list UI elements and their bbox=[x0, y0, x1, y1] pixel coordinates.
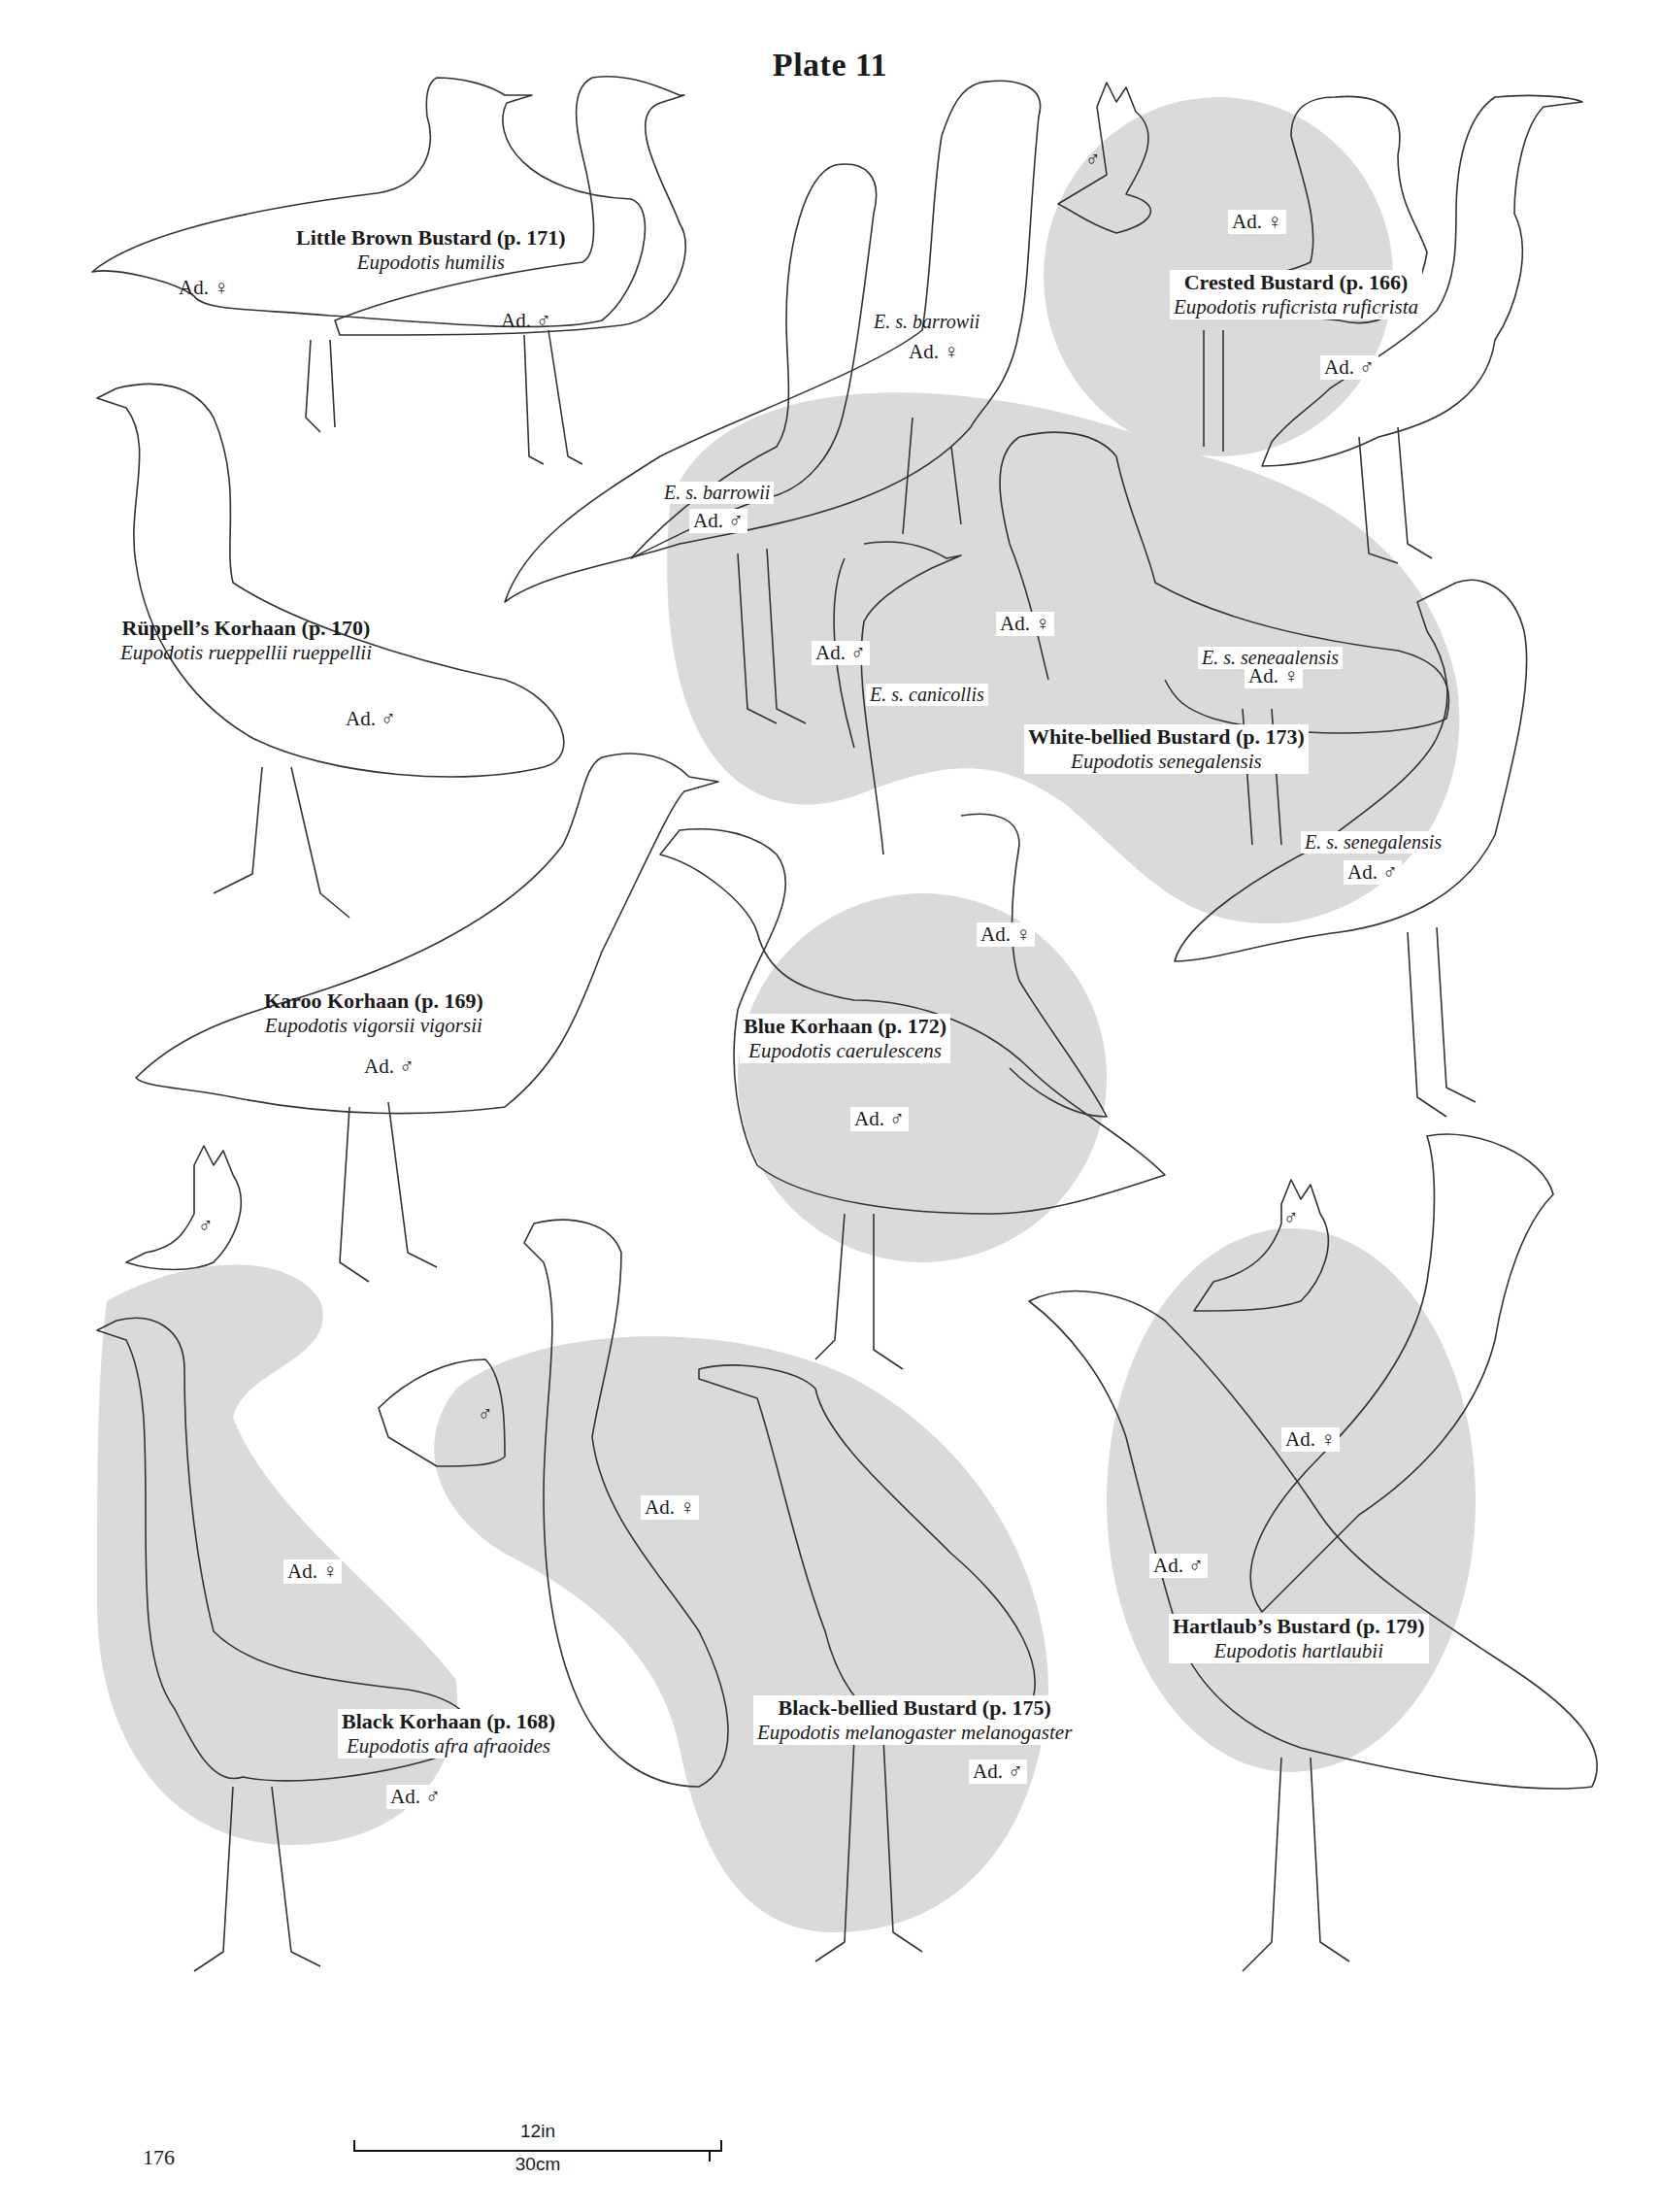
common-name: White-bellied Bustard (p. 173) bbox=[1024, 724, 1309, 750]
scientific-name: Eupodotis senegalensis bbox=[1024, 750, 1309, 774]
label-karoo-korhaan: Karoo Korhaan (p. 169) Eupodotis vigorsi… bbox=[264, 989, 483, 1038]
tag-adult-male: Ad. ♂ bbox=[346, 707, 396, 731]
common-name: Black Korhaan (p. 168) bbox=[338, 1709, 559, 1734]
label-little-brown-bustard: Little Brown Bustard (p. 171) Eupodotis … bbox=[296, 225, 566, 275]
tag-adult-male: Ad. ♂ bbox=[1320, 355, 1378, 380]
common-name: Black-bellied Bustard (p. 175) bbox=[753, 1695, 1076, 1721]
label-hartlaubs-bustard: Hartlaub’s Bustard (p. 179) Eupodotis ha… bbox=[1169, 1614, 1429, 1663]
tag-adult-female: Ad. ♀ bbox=[283, 1559, 342, 1584]
scale-metric-label: 30cm bbox=[353, 2154, 722, 2175]
scientific-name: Eupodotis melanogaster melanogaster bbox=[753, 1721, 1076, 1745]
scale-imperial-label: 12in bbox=[353, 2121, 722, 2142]
plate-title: Plate 11 bbox=[0, 47, 1660, 84]
tag-adult-male: Ad. ♂ bbox=[812, 641, 870, 665]
tag-adult-female: Ad. ♀ bbox=[1281, 1427, 1340, 1452]
tag-adult-male: Ad. ♂ bbox=[386, 1785, 445, 1809]
tag-male: ♂ bbox=[1283, 1206, 1299, 1230]
common-name: Crested Bustard (p. 166) bbox=[1170, 270, 1422, 295]
tag-male: ♂ bbox=[198, 1214, 214, 1238]
tag-adult-female: Ad. ♀ bbox=[909, 340, 959, 364]
tag-adult-female: Ad. ♀ bbox=[1245, 664, 1303, 688]
tag-adult-male: Ad. ♂ bbox=[850, 1107, 909, 1131]
scientific-name: Eupodotis rueppellii rueppellii bbox=[120, 641, 372, 665]
tag-adult-male: Ad. ♂ bbox=[1149, 1554, 1208, 1578]
common-name: Hartlaub’s Bustard (p. 179) bbox=[1169, 1614, 1429, 1639]
scale-line bbox=[353, 2150, 722, 2152]
scientific-name: Eupodotis humilis bbox=[296, 251, 566, 275]
label-black-bellied-bustard: Black-bellied Bustard (p. 175) Eupodotis… bbox=[753, 1695, 1076, 1745]
subspecies-barrowii-male: E. s. barrowii bbox=[660, 482, 774, 504]
label-blue-korhaan: Blue Korhaan (p. 172) Eupodotis caerules… bbox=[740, 1014, 950, 1063]
scale-tick-right bbox=[720, 2140, 722, 2152]
scientific-name: Eupodotis caerulescens bbox=[740, 1039, 950, 1063]
tag-adult-female: Ad. ♀ bbox=[996, 612, 1054, 636]
scientific-name: Eupodotis hartlaubii bbox=[1169, 1639, 1429, 1663]
scientific-name: Eupodotis afra afraoides bbox=[338, 1734, 559, 1759]
tag-adult-male: Ad. ♂ bbox=[364, 1055, 415, 1079]
label-crested-bustard: Crested Bustard (p. 166) Eupodotis rufic… bbox=[1170, 270, 1422, 319]
page-number: 176 bbox=[143, 2145, 175, 2170]
tag-male: ♂ bbox=[478, 1402, 493, 1426]
tag-adult-female: Ad. ♀ bbox=[641, 1495, 699, 1520]
common-name: Little Brown Bustard (p. 171) bbox=[296, 225, 566, 251]
tag-adult-male: Ad. ♂ bbox=[969, 1760, 1027, 1784]
tag-adult-female: Ad. ♀ bbox=[179, 276, 229, 300]
tag-adult-female: Ad. ♀ bbox=[977, 922, 1035, 947]
subspecies-senegalensis-male: E. s. senegalensis bbox=[1301, 831, 1445, 854]
subspecies-barrowii-female: E. s. barrowii bbox=[874, 311, 979, 333]
scale-bar: 12in 30cm bbox=[353, 2132, 722, 2191]
tag-adult-male: Ad. ♂ bbox=[1344, 860, 1402, 885]
label-white-bellied-bustard: White-bellied Bustard (p. 173) Eupodotis… bbox=[1024, 724, 1309, 774]
scientific-name: Eupodotis vigorsii vigorsii bbox=[264, 1014, 483, 1038]
scientific-name: Eupodotis ruficrista ruficrista bbox=[1170, 295, 1422, 319]
tag-adult-female: Ad. ♀ bbox=[1228, 210, 1286, 234]
subspecies-canicollis-male: E. s. canicollis bbox=[866, 684, 988, 706]
common-name: Blue Korhaan (p. 172) bbox=[740, 1014, 950, 1039]
common-name: Karoo Korhaan (p. 169) bbox=[264, 989, 483, 1014]
label-ruppells-korhaan: Rüppell’s Korhaan (p. 170) Eupodotis rue… bbox=[120, 616, 372, 665]
tag-adult-male: Ad. ♂ bbox=[689, 509, 747, 533]
plate-illustration bbox=[0, 0, 1660, 2212]
tag-male: ♂ bbox=[1085, 148, 1101, 172]
tag-adult-male: Ad. ♂ bbox=[501, 309, 551, 333]
common-name: Rüppell’s Korhaan (p. 170) bbox=[120, 616, 372, 641]
label-black-korhaan: Black Korhaan (p. 168) Eupodotis afra af… bbox=[338, 1709, 559, 1759]
